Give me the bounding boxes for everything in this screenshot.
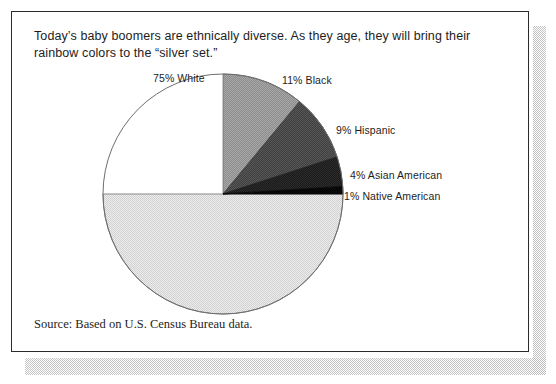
pie-label-black: 11% Black [282,74,332,86]
pie-chart: 75% White 11% Black 9% Hispanic 4% Asian… [12,12,530,353]
frame-shadow-right [533,26,546,375]
figure-frame: Today’s baby boomers are ethnically dive… [11,11,529,352]
pie-label-native-american: 1% Native American [344,190,440,202]
pie-chart-svg [97,68,349,320]
frame-shadow-bottom [25,358,546,375]
pie-slice-white [103,194,343,314]
pie-label-hispanic: 9% Hispanic [336,124,395,136]
pie-label-asian-american: 4% Asian American [350,169,442,181]
figure-source: Source: Based on U.S. Census Bureau data… [34,317,252,332]
pie-label-white: 75% White [153,72,205,84]
figure-stage: Today’s baby boomers are ethnically dive… [0,0,556,384]
